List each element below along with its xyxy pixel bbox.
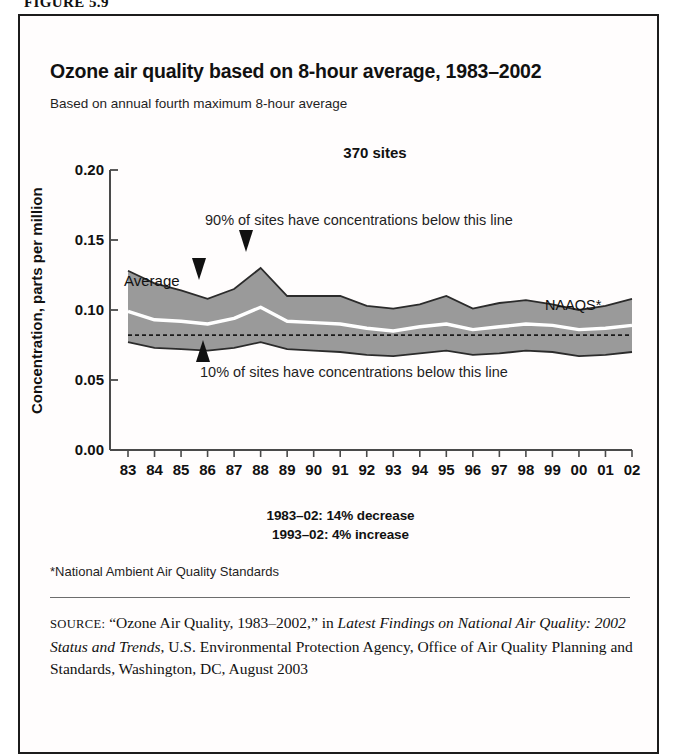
x-tick-label: 91 [332,461,349,478]
average-label: Average [124,272,180,289]
y-axis-ticks: 0.000.050.100.150.20 [75,161,118,458]
chart-subtitle: Based on annual fourth maximum 8-hour av… [50,96,635,111]
x-tick-label: 88 [252,461,269,478]
x-tick-label: 85 [173,461,190,478]
lower-percentile-annotation: 10% of sites have concentrations below t… [200,364,508,380]
x-tick-label: 83 [120,461,137,478]
trend-note-1: 1983–02: 14% decrease [20,506,661,525]
x-tick-label: 87 [226,461,243,478]
x-tick-label: 96 [464,461,481,478]
trend-note-2: 1993–02: 4% increase [20,525,661,544]
x-tick-label: 00 [571,461,588,478]
divider [50,597,630,598]
x-tick-label: 94 [411,461,428,478]
x-tick-label: 92 [358,461,375,478]
footnote: *National Ambient Air Quality Standards [50,564,279,579]
source-part-1: “Ozone Air Quality, 1983–2002,” in [105,614,337,631]
y-tick-label: 0.05 [75,371,104,388]
x-tick-label: 93 [385,461,402,478]
chart-plot-area: Concentration, parts per million 0.000.0… [20,134,661,504]
source-citation: SOURCE: “Ozone Air Quality, 1983–2002,” … [50,612,638,681]
sites-count-label: 370 sites [343,144,406,161]
y-axis-title: Concentration, parts per million [28,187,45,414]
x-tick-label: 98 [518,461,535,478]
y-tick-label: 0.00 [75,441,104,458]
trend-notes: 1983–02: 14% decrease 1993–02: 4% increa… [20,506,661,544]
source-prefix: SOURCE: [50,617,105,631]
y-tick-label: 0.15 [75,231,104,248]
figure-box: Ozone air quality based on 8-hour averag… [18,14,659,754]
x-tick-label: 84 [146,461,163,478]
x-axis-ticks: 8384858687888990919293949596979899000102 [120,450,641,478]
average-annotation-arrow [192,258,206,280]
upper-percentile-annotation: 90% of sites have concentrations below t… [205,212,513,228]
naaqs-label: NAAQS* [545,297,602,313]
x-tick-label: 02 [624,461,641,478]
x-tick-label: 86 [199,461,216,478]
y-tick-label: 0.20 [75,161,104,178]
y-tick-label: 0.10 [75,301,104,318]
figure-inner: Ozone air quality based on 8-hour averag… [20,16,657,752]
x-tick-label: 99 [544,461,561,478]
x-tick-label: 89 [279,461,296,478]
x-tick-label: 90 [305,461,322,478]
x-tick-label: 95 [438,461,455,478]
x-tick-label: 97 [491,461,508,478]
x-tick-label: 01 [597,461,614,478]
chart-title: Ozone air quality based on 8-hour averag… [50,60,635,83]
figure-number: FIGURE 5.9 [24,0,109,11]
upper-annotation-arrow [239,230,253,252]
ozone-area-chart: Concentration, parts per million 0.000.0… [20,134,661,504]
